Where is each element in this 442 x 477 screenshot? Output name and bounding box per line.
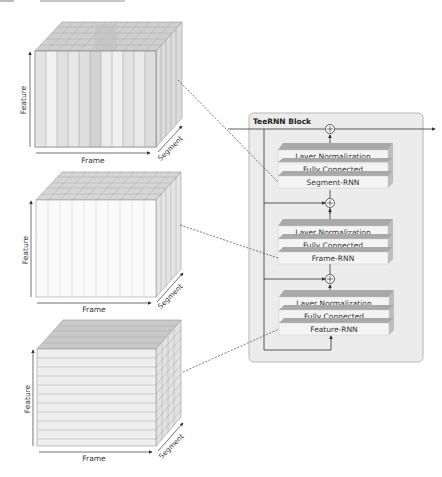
- feature-axis-label: Feature: [23, 384, 32, 413]
- frame-axis-label: Frame: [82, 305, 106, 314]
- frame-axis-label: Frame: [82, 454, 106, 463]
- block-title: TeeRNN Block: [253, 117, 312, 126]
- teernn-block: TeeRNN Block: [228, 113, 435, 362]
- frame-axis-label: Frame: [81, 156, 105, 165]
- feature-axis-label: Feature: [19, 85, 28, 114]
- feature-rnn-label: Feature-RNN: [310, 325, 357, 334]
- add-node-icon: [326, 199, 335, 208]
- add-node-icon: [326, 275, 335, 284]
- segment-rnn-label: Segment-RNN: [307, 178, 360, 187]
- feature-cube: Feature Frame Segment: [23, 320, 186, 463]
- cut-off-header: [0, 0, 125, 2]
- frame-stage: Layer Normalization Fully Connected Fram…: [278, 219, 393, 264]
- segment-stage: Layer Normalization Fully Connected Segm…: [278, 143, 393, 188]
- feature-stage: Layer Normalization Fully Connected Feat…: [279, 290, 394, 335]
- feature-axis-label: Feature: [21, 235, 30, 264]
- teernn-diagram: Feature Frame Segment: [0, 0, 442, 477]
- frame-cube: Feature Frame Segment: [21, 172, 185, 314]
- frame-rnn-label: Frame-RNN: [312, 254, 355, 263]
- add-node-icon: [326, 125, 335, 134]
- segment-cube: Feature Frame Segment: [19, 22, 185, 165]
